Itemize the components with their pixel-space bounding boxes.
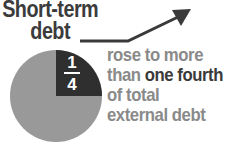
annotation-text: rose to more than one fourth of total ex… [107, 45, 223, 125]
trend-arrow-icon [80, 9, 191, 41]
caption-line-4: external debt [107, 105, 223, 125]
fraction-label: 1 4 [60, 54, 84, 93]
caption-line-3: of total [107, 85, 223, 105]
caption-line-2-pre: than [107, 64, 145, 85]
caption-line-2: than one fourth [107, 65, 223, 85]
caption-line-1: rose to more [107, 45, 223, 65]
fraction-denominator: 4 [60, 76, 84, 93]
fraction-bar [64, 72, 80, 74]
caption-emphasis: one fourth [145, 64, 223, 85]
fraction-numerator: 1 [60, 54, 84, 71]
